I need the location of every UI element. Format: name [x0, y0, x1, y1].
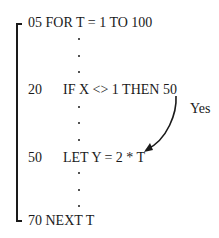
ellipsis-dot: [78, 139, 80, 141]
line-code: NEXT T: [46, 213, 95, 228]
line-70: 70 NEXT T: [28, 213, 94, 229]
yes-label: Yes: [190, 101, 210, 117]
ellipsis-dot: [78, 106, 80, 108]
ellipsis-dot: [78, 172, 80, 174]
ellipsis-dot: [78, 71, 80, 73]
line-number: 05: [28, 15, 42, 30]
ellipsis-dot: [78, 38, 80, 40]
line-50-number: 50: [28, 150, 42, 166]
line-code: FOR T = 1 TO 100: [46, 15, 153, 30]
line-20-number: 20: [28, 82, 42, 98]
line-20-code: IF X <> 1 THEN 50: [63, 82, 177, 98]
line-number: 70: [28, 213, 42, 228]
ellipsis-dot: [78, 205, 80, 207]
line-05: 05 FOR T = 1 TO 100: [28, 15, 152, 31]
ellipsis-dot: [78, 55, 80, 57]
ellipsis-dot: [78, 122, 80, 124]
ellipsis-dot: [78, 189, 80, 191]
loop-bracket-and-arrow: [0, 0, 219, 238]
line-50-code: LET Y = 2 * T: [63, 150, 145, 166]
